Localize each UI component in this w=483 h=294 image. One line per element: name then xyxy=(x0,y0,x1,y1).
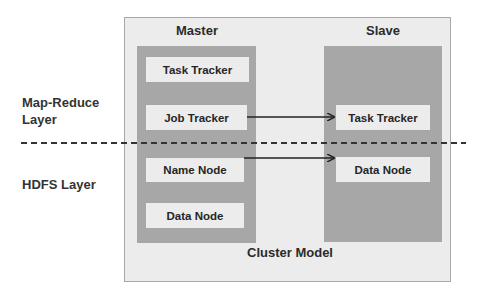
slave-title: Slave xyxy=(324,23,442,38)
slave-task-tracker-box: Task Tracker xyxy=(336,105,430,130)
slave-panel xyxy=(324,46,442,242)
master-job-tracker-box: Job Tracker xyxy=(146,105,247,130)
slave-data-node-box: Data Node xyxy=(336,157,430,182)
map-reduce-layer-label: Map-Reduce Layer xyxy=(22,94,99,128)
cluster-model-caption: Cluster Model xyxy=(230,245,350,260)
hdfs-layer-label: HDFS Layer xyxy=(22,176,96,193)
master-name-node-box: Name Node xyxy=(146,158,244,182)
master-task-tracker-box: Task Tracker xyxy=(146,57,249,82)
master-data-node-box: Data Node xyxy=(146,203,244,228)
map-reduce-layer-label-line2: Layer xyxy=(22,111,99,128)
master-title: Master xyxy=(137,23,257,38)
map-reduce-layer-label-line1: Map-Reduce xyxy=(22,94,99,111)
